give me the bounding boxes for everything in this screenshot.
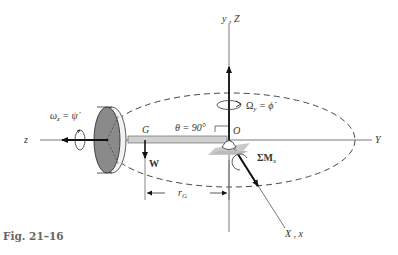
horizontal-axis-label: Y <box>375 134 381 145</box>
diagonal-axis-label: X , x <box>285 228 303 239</box>
figure-caption: Fig. 21–16 <box>3 230 64 242</box>
center-of-mass-label: G <box>142 124 149 135</box>
angle-label: θ = 90° <box>175 122 206 133</box>
spin-label: ωz = ψ̇ <box>50 110 78 123</box>
right-angle-marker <box>215 126 228 132</box>
precession-label: Ωy = ϕ̇ <box>246 100 273 113</box>
weight-label: W <box>149 158 159 169</box>
rod <box>128 136 227 143</box>
radius-label: rG <box>178 187 187 200</box>
origin-label: O <box>233 125 240 136</box>
vertical-axis-label: y , Z <box>222 13 240 24</box>
z-axis-label: z <box>24 134 28 145</box>
moment-label: ΣMx <box>257 152 276 165</box>
